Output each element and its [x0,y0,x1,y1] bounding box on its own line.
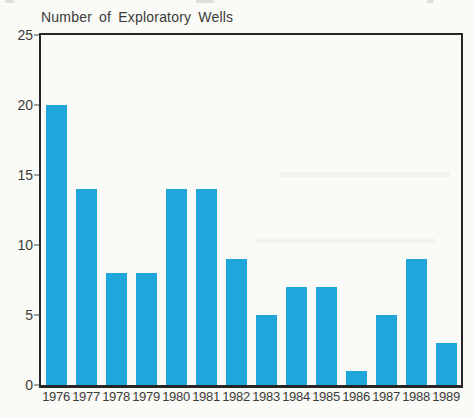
y-tick-mark-0 [34,384,39,386]
x-tick-label-1978: 1978 [101,389,131,404]
x-tick-label-1988: 1988 [401,389,431,404]
bar-1981 [196,189,217,385]
bar-1984 [286,287,307,385]
bars-group [41,35,461,385]
x-tick-label-1977: 1977 [71,389,101,404]
bar-1983 [256,315,277,385]
y-tick-label-25: 25 [0,27,33,43]
y-tick-mark-20 [34,104,39,106]
y-tick-label-0: 0 [0,377,33,393]
y-tick-label-15: 15 [0,167,33,183]
x-tick-label-1984: 1984 [281,389,311,404]
scan-artifact [196,0,214,3]
bar-1980 [166,189,187,385]
y-tick-mark-5 [34,314,39,316]
y-tick-label-20: 20 [0,97,33,113]
y-tick-mark-25 [34,34,39,36]
bar-1989 [436,343,457,385]
x-tick-label-1986: 1986 [341,389,371,404]
chart-title: Number of Exploratory Wells [41,9,233,25]
y-tick-mark-15 [34,174,39,176]
bar-1976 [46,105,67,385]
x-tick-label-1979: 1979 [131,389,161,404]
x-tick-label-1983: 1983 [251,389,281,404]
bar-1978 [106,273,127,385]
scan-artifact [427,0,434,3]
bar-1985 [316,287,337,385]
x-tick-label-1982: 1982 [221,389,251,404]
x-tick-label-1987: 1987 [371,389,401,404]
bar-1977 [76,189,97,385]
x-tick-label-1985: 1985 [311,389,341,404]
y-tick-mark-10 [34,244,39,246]
x-tick-label-1989: 1989 [431,389,461,404]
bar-1979 [136,273,157,385]
x-tick-label-1981: 1981 [191,389,221,404]
bar-1988 [406,259,427,385]
y-tick-label-10: 10 [0,237,33,253]
bar-1986 [346,371,367,385]
x-tick-label-1976: 1976 [41,389,71,404]
bar-1987 [376,315,397,385]
plot-box [39,33,463,388]
y-tick-label-5: 5 [0,307,33,323]
chart-figure: Number of Exploratory Wells 0510152025 1… [0,0,474,418]
x-tick-label-1980: 1980 [161,389,191,404]
bar-1982 [226,259,247,385]
scan-artifact [5,0,14,3]
